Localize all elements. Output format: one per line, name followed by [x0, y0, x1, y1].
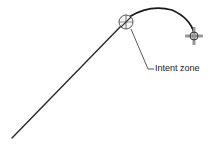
intent-zone-marker	[119, 15, 133, 29]
leader-line	[131, 29, 154, 69]
drawn-line	[12, 26, 121, 138]
drawing-canvas	[0, 0, 220, 149]
crosshair-cursor-icon	[185, 27, 203, 45]
arc-segment	[129, 8, 194, 33]
intent-zone-label: Intent zone	[155, 63, 200, 74]
